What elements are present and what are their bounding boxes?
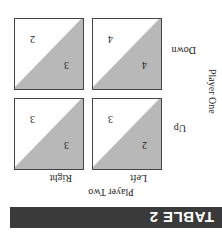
cell-up-right: 3 3	[14, 98, 84, 170]
payoff-p2: 4	[108, 34, 113, 45]
payoff-p1: 3	[64, 60, 69, 71]
player-two-label: Player Two	[0, 187, 222, 198]
col-right-label: Right	[50, 173, 72, 184]
col-left-label: Left	[130, 173, 147, 184]
row-down-label: Down	[172, 45, 196, 56]
payoff-p1: 3	[64, 140, 69, 151]
cell-down-left: 4 4	[92, 18, 162, 90]
table-header: TABLE 2	[10, 207, 222, 228]
payoff-p1: 2	[142, 140, 147, 151]
player-one-label: Player One	[207, 69, 218, 114]
payoff-p1: 4	[142, 60, 147, 71]
payoff-p2: 3	[108, 114, 113, 125]
cell-up-left: 2 3	[92, 98, 162, 170]
table-figure: TABLE 2 Player Two Left Right Up Down Pl…	[0, 0, 222, 234]
payoff-p2: 3	[30, 114, 35, 125]
payoff-p2: 2	[30, 34, 35, 45]
cell-down-right: 3 2	[14, 18, 84, 90]
row-up-label: Up	[174, 123, 186, 134]
table-title: TABLE 2	[149, 209, 214, 226]
